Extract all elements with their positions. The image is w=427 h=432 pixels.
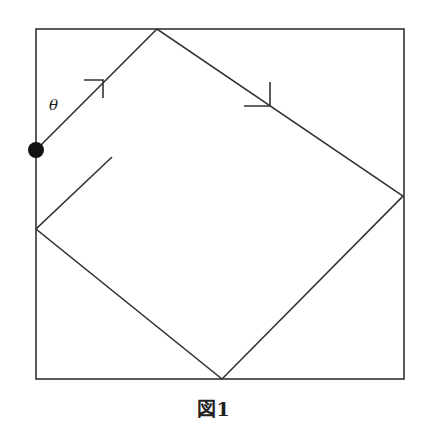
angle-label: θ: [49, 96, 58, 114]
direction-arrow-icon: [84, 80, 103, 98]
figure-caption: 図1: [0, 394, 427, 421]
billiard-diagram: θ: [0, 0, 427, 432]
ball-trajectory: [36, 29, 403, 379]
ball-icon: [28, 142, 44, 158]
table-boundary: [36, 29, 404, 379]
